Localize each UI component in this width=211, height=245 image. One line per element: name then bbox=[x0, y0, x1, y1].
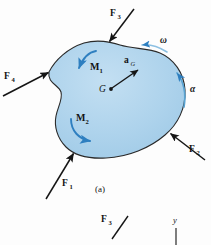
center-of-mass-label: G bbox=[99, 84, 106, 94]
figure-caption: (a) bbox=[95, 184, 105, 194]
angular-velocity-label: ω bbox=[160, 35, 167, 45]
force-arrow-f4 bbox=[3, 73, 49, 97]
figure-container: F 3 F 4 F 1 F 2 M 1 M 2 ω α bbox=[0, 0, 211, 245]
force-label-f2-base: F bbox=[189, 144, 195, 154]
second-figure-force-sub: 3 bbox=[109, 219, 113, 226]
force-label-f4-sub: 4 bbox=[12, 76, 16, 83]
moment-label-m2-base: M bbox=[76, 112, 86, 123]
force-label-f3-base: F bbox=[110, 8, 116, 18]
force-label-f1: F 1 bbox=[62, 178, 73, 190]
force-arrow-f1 bbox=[46, 154, 74, 200]
force-label-f2: F 2 bbox=[189, 144, 201, 156]
force-label-f3-sub: 3 bbox=[118, 13, 122, 20]
force-label-f1-sub: 1 bbox=[70, 183, 73, 190]
second-figure-force-label: F 3 bbox=[101, 214, 113, 226]
rigid-body-kinetics-diagram: F 3 F 4 F 1 F 2 M 1 M 2 ω α bbox=[0, 0, 211, 245]
acceleration-label-base: a bbox=[124, 55, 129, 65]
force-label-f4: F 4 bbox=[4, 71, 16, 83]
force-arrow-f2 bbox=[171, 134, 206, 161]
moment-label-m1-base: M bbox=[90, 61, 100, 72]
second-figure-fragment bbox=[112, 216, 176, 245]
y-axis-label: y bbox=[172, 215, 177, 225]
force-label-f4-base: F bbox=[4, 71, 10, 81]
force-label-f1-base: F bbox=[62, 178, 68, 188]
force-label-f2-sub: 2 bbox=[197, 149, 201, 156]
force-label-f3: F 3 bbox=[110, 8, 122, 20]
moment-label-m1-sub: 1 bbox=[100, 67, 103, 74]
rigid-body-shape bbox=[49, 41, 185, 158]
acceleration-label-sub: G bbox=[131, 60, 136, 67]
angular-acceleration-label: α bbox=[190, 84, 196, 94]
second-figure-force-base: F bbox=[101, 214, 107, 224]
